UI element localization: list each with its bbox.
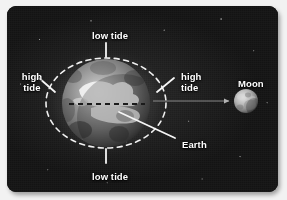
label-low-tide-top: low tide: [92, 31, 128, 42]
label-high-tide-left: high tide: [16, 72, 48, 93]
tides-diagram-figure: low tide low tide high tide high tide Ea…: [0, 0, 287, 200]
label-low-tide-bottom: low tide: [92, 172, 128, 183]
label-high-tide-right: high tide: [181, 72, 201, 93]
diagram-panel: low tide low tide high tide high tide Ea…: [7, 6, 278, 192]
label-moon: Moon: [238, 79, 264, 90]
label-earth: Earth: [182, 140, 207, 151]
moon-body: [234, 89, 262, 116]
diagram-vector-layer: [7, 6, 278, 192]
